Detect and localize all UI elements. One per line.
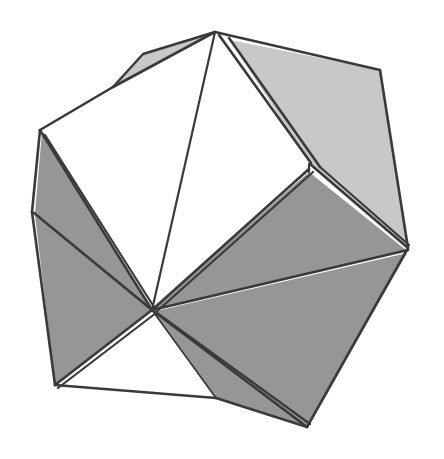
polyhedron-illustration [0, 0, 444, 459]
figure-root [0, 0, 444, 459]
